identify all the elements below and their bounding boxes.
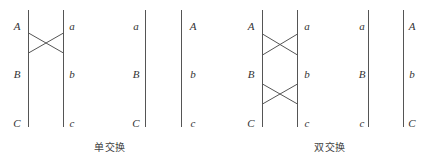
label-p4-left-3: c bbox=[360, 118, 365, 129]
label-p2-left-2: B bbox=[133, 69, 140, 80]
label-p1-right-1: a bbox=[69, 21, 75, 32]
label-p1-left-3: C bbox=[13, 118, 20, 129]
label-p1-right-2: b bbox=[69, 69, 75, 80]
label-p3-right-3: c bbox=[305, 118, 310, 129]
label-p4-right-3: C bbox=[408, 118, 415, 129]
label-p1-right-3: c bbox=[70, 118, 75, 129]
caption-single-crossover: 单交换 bbox=[94, 139, 126, 154]
label-p3-right-1: a bbox=[304, 21, 310, 32]
caption-double-crossover: 双交换 bbox=[314, 139, 346, 154]
label-p3-left-3: C bbox=[247, 118, 254, 129]
label-p4-right-1: A bbox=[409, 21, 416, 32]
label-p3-left-1: A bbox=[248, 21, 255, 32]
label-p2-right-2: b bbox=[190, 69, 196, 80]
label-p2-left-1: a bbox=[133, 21, 139, 32]
label-p4-left-1: a bbox=[359, 21, 365, 32]
label-p1-left-1: A bbox=[14, 21, 21, 32]
label-p3-left-2: B bbox=[248, 69, 255, 80]
label-p1-left-2: B bbox=[14, 69, 21, 80]
label-p4-left-2: B bbox=[359, 69, 366, 80]
label-p4-right-2: b bbox=[409, 69, 415, 80]
label-p2-left-3: C bbox=[132, 118, 139, 129]
label-p2-right-3: c bbox=[191, 118, 196, 129]
label-p3-right-2: b bbox=[304, 69, 310, 80]
label-p2-right-1: A bbox=[190, 21, 197, 32]
